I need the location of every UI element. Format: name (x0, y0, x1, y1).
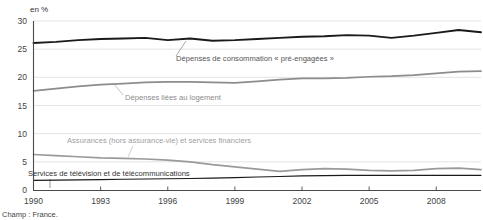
series-annotation-label-1: Dépenses liées au logement (125, 93, 222, 102)
x-tick-label: 2002 (293, 196, 312, 206)
y-tick-label: 0 (22, 185, 27, 195)
x-tick-label: 1999 (225, 196, 244, 206)
series-annotation-label-2: Assurances (hors assurance-vie) et servi… (67, 136, 251, 145)
y-tick-label: 25 (18, 44, 28, 54)
chart-footnote: Champ : France. (2, 210, 58, 219)
chart-background (0, 0, 483, 220)
y-tick-label: 5 (22, 157, 27, 167)
y-tick-label: 10 (18, 129, 28, 139)
x-tick-label: 2005 (360, 196, 379, 206)
x-tick-label: 1996 (158, 196, 177, 206)
x-tick-label: 1993 (91, 196, 110, 206)
y-tick-label: 20 (18, 72, 28, 82)
y-axis-unit-label: en % (30, 5, 48, 14)
series-annotation-label-0: Dépenses de consommation « pré-engagées … (176, 54, 334, 63)
series-annotation-label-3: Services de télévision et de télécommuni… (28, 169, 190, 178)
line-chart: 051015202530 199019931996199920022005200… (0, 0, 483, 220)
chart-container: 051015202530 199019931996199920022005200… (0, 0, 483, 220)
x-tick-label: 1990 (24, 196, 43, 206)
y-tick-label: 15 (18, 101, 28, 111)
y-tick-label: 30 (18, 16, 28, 26)
x-tick-label: 2008 (427, 196, 446, 206)
